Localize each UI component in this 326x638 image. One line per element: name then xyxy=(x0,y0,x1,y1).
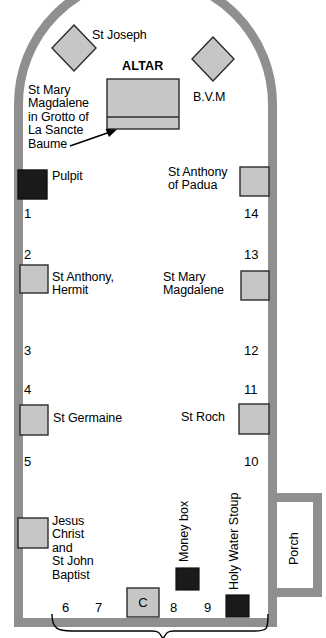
label-st-anthony-of-padua: St Anthony of Padua xyxy=(168,166,227,193)
station-number-3: 3 xyxy=(24,344,31,357)
holy-water-stoup xyxy=(226,595,249,617)
label-altar: ALTAR xyxy=(122,60,164,73)
church-floor-plan: St Joseph ALTAR B.V.M St Mary Magdalene … xyxy=(0,0,326,638)
label-st-roch: St Roch xyxy=(181,411,225,424)
altar xyxy=(107,79,179,129)
station-number-4: 4 xyxy=(24,383,31,396)
station-number-2: 2 xyxy=(24,248,31,261)
st-anthony-padua-statue xyxy=(240,167,269,196)
station-number-10: 10 xyxy=(244,455,258,468)
st-joseph-altar xyxy=(52,25,96,71)
st-mary-magdalene-statue xyxy=(241,271,269,300)
station-number-13: 13 xyxy=(244,248,258,261)
station-number-8: 8 xyxy=(170,601,177,614)
st-anthony-hermit-statue xyxy=(20,265,48,293)
st-germaine-statue xyxy=(20,405,48,435)
station-number-12: 12 xyxy=(244,344,258,357)
station-number-5: 5 xyxy=(24,455,31,468)
label-st-mary-magdalene: St Mary Magdalene xyxy=(163,271,224,298)
label-st-anthony-hermit: St Anthony, Hermit xyxy=(52,271,114,298)
label-st-mary-magdalene-grotto: St Mary Magdalene in Grotto of La Sancte… xyxy=(28,84,89,151)
money-box xyxy=(176,568,199,590)
pulpit xyxy=(18,170,47,199)
bvm-altar xyxy=(192,37,234,81)
st-roch-statue xyxy=(239,404,269,434)
station-number-14: 14 xyxy=(244,207,258,220)
label-money-box: Money box xyxy=(178,501,191,562)
jesus-st-john-statue xyxy=(18,518,48,548)
station-number-6: 6 xyxy=(62,601,69,614)
label-confessional: C xyxy=(127,596,159,609)
label-pulpit: Pulpit xyxy=(52,170,83,183)
label-st-germaine: St Germaine xyxy=(53,412,122,425)
station-number-9: 9 xyxy=(204,601,211,614)
station-number-11: 11 xyxy=(244,383,258,396)
station-number-1: 1 xyxy=(24,207,31,220)
label-bvm: B.V.M xyxy=(193,91,225,104)
label-st-joseph: St Joseph xyxy=(92,29,147,42)
label-jesus-christ-st-john-baptist: Jesus Christ and St John Baptist xyxy=(52,515,94,582)
station-number-7: 7 xyxy=(95,601,102,614)
label-porch: Porch xyxy=(288,532,301,565)
label-holy-water-stoup: Holy Water Stoup xyxy=(228,493,241,591)
